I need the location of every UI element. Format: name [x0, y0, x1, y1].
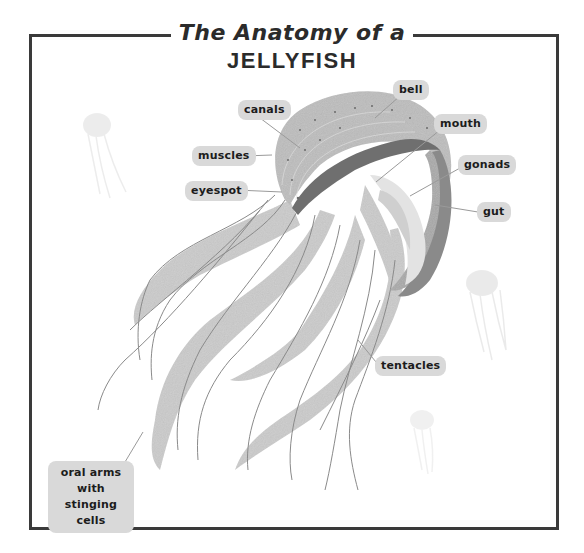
background-jellyfish-right	[466, 270, 506, 360]
label-oral-arms: oral arms with stinging cells	[48, 461, 134, 533]
title-subtitle: The Anatomy of a	[171, 18, 414, 48]
label-gut: gut	[477, 202, 511, 222]
background-jellyfish-bottom	[410, 410, 434, 474]
label-bell: bell	[393, 80, 429, 100]
title-block: The Anatomy of a JELLYFISH	[0, 18, 584, 74]
background-jellyfish-left	[83, 113, 126, 198]
label-eyespot: eyespot	[185, 181, 248, 201]
label-mouth: mouth	[434, 114, 487, 134]
label-tentacles: tentacles	[375, 356, 446, 376]
title-main: JELLYFISH	[0, 48, 584, 74]
label-gonads: gonads	[458, 155, 516, 175]
label-muscles: muscles	[192, 146, 256, 166]
oral-arms	[134, 185, 405, 470]
label-canals: canals	[238, 100, 291, 120]
